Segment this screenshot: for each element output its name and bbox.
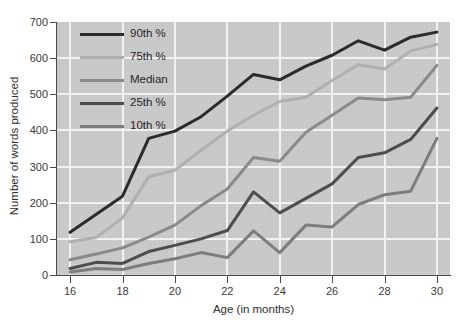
legend-label: 25th % [130,95,166,109]
gridline-vertical [331,22,333,275]
legend-swatch [80,102,124,105]
x-tick-label: 30 [422,286,452,297]
gridline-vertical [436,22,438,275]
legend-label: 10th % [130,118,166,132]
y-tick-label: 700 [4,17,48,28]
y-tick [50,239,57,240]
legend-label: 75th % [130,49,166,63]
x-tick [175,276,176,283]
y-tick [50,22,57,23]
gridline-horizontal [57,238,450,240]
y-tick [50,94,57,95]
x-tick [70,276,71,283]
x-tick [437,276,438,283]
gridline-horizontal [57,166,450,168]
legend-item: Median [80,70,185,93]
legend-item: 25th % [80,93,185,116]
legend-swatch [80,56,124,59]
legend-label: 90th % [130,26,166,40]
legend-item: 10th % [80,116,185,139]
gridline-vertical [226,22,228,275]
y-tick [50,203,57,204]
y-tick [50,58,57,59]
gridline-vertical [384,22,386,275]
y-tick-label: 0 [4,270,48,281]
x-tick [227,276,228,283]
x-tick-label: 26 [317,286,347,297]
x-tick-label: 16 [55,286,85,297]
x-tick [280,276,281,283]
x-tick-label: 22 [212,286,242,297]
x-tick-label: 28 [370,286,400,297]
x-tick-label: 18 [108,286,138,297]
x-tick-label: 20 [160,286,190,297]
x-tick-label: 24 [265,286,295,297]
legend-swatch [80,79,124,82]
legend-item: 75th % [80,47,185,70]
x-tick [123,276,124,283]
legend-swatch [80,125,124,128]
figure-container: 0100200300400500600700 1618202224262830 … [0,0,465,326]
x-axis-title: Age (in months) [57,303,450,315]
y-axis-title: Number of words produced [8,46,20,246]
gridline-horizontal [57,202,450,204]
legend-label: Median [130,72,168,86]
legend-swatch [80,33,124,36]
gridline-vertical [279,22,281,275]
legend-item: 90th % [80,24,185,47]
x-tick [385,276,386,283]
gridline-vertical [69,22,71,275]
y-tick [50,130,57,131]
x-axis-line [56,275,451,276]
x-tick [332,276,333,283]
y-tick [50,275,57,276]
chart-legend: 90th %75th %Median25th %10th % [80,24,185,139]
y-tick [50,167,57,168]
